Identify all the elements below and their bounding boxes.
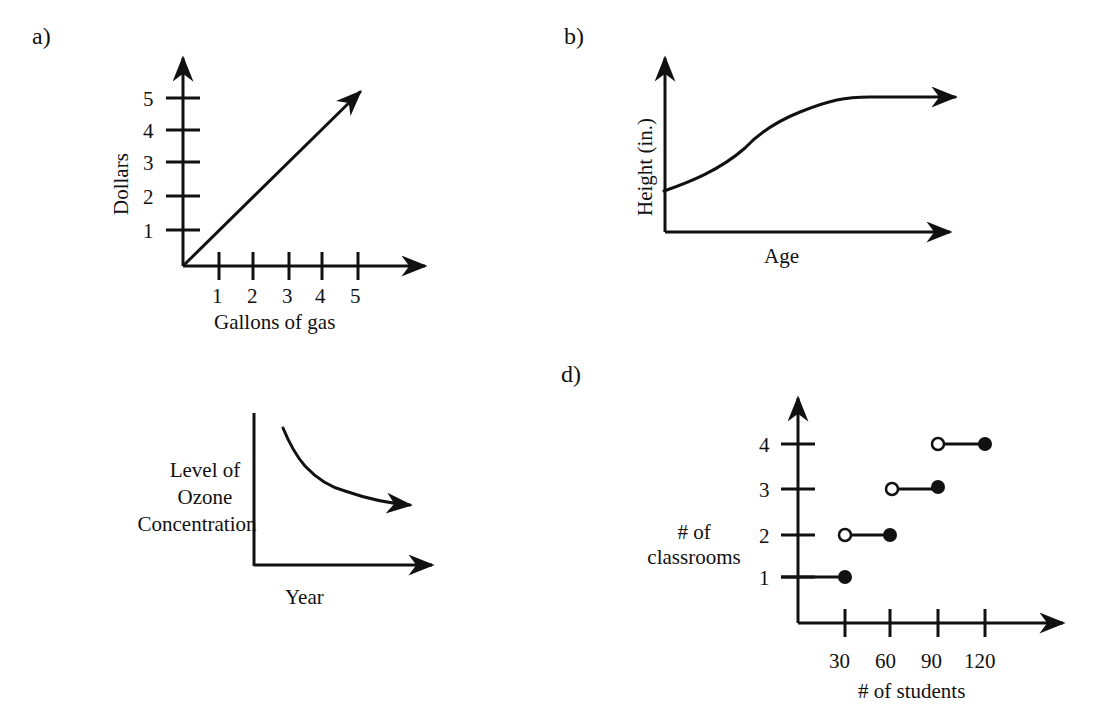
svg-text:5: 5 (143, 87, 154, 111)
svg-text:4: 4 (759, 433, 770, 457)
svg-text:Ozone: Ozone (178, 485, 233, 509)
step-segments-d (781, 437, 992, 584)
svg-text:2: 2 (759, 524, 770, 548)
line-a (185, 92, 360, 264)
svg-text:2: 2 (247, 284, 258, 308)
svg-text:3: 3 (143, 151, 154, 175)
open-point (839, 529, 851, 541)
closed-point (883, 528, 897, 542)
svg-text:Concentration: Concentration (138, 512, 257, 536)
y-label-b: Height (in.) (633, 118, 657, 216)
svg-text:1: 1 (759, 566, 770, 590)
svg-text:60: 60 (875, 649, 896, 673)
closed-point (978, 437, 992, 451)
svg-text:classrooms: classrooms (647, 545, 740, 569)
svg-text:3: 3 (759, 478, 770, 502)
svg-text:1: 1 (143, 219, 154, 243)
panel-label-b: b) (564, 23, 584, 49)
chart-c: Year Level of Ozone Concentration (138, 413, 432, 609)
chart-d: d) 1 2 3 4 30 60 90 120 (561, 361, 1063, 703)
panel-label-d: d) (561, 361, 581, 387)
y-ticks-a: 1 2 3 4 5 (143, 87, 200, 243)
y-label-c: Level of Ozone Concentration (138, 458, 257, 536)
svg-text:90: 90 (921, 649, 942, 673)
panel-label-a: a) (32, 23, 51, 49)
x-label-c: Year (285, 585, 324, 609)
chart-a: a) 1 2 3 4 5 1 2 3 4 5 Gallons (32, 23, 425, 334)
closed-point (931, 480, 945, 494)
svg-text:4: 4 (315, 284, 326, 308)
x-ticks-d: 30 60 90 120 (829, 609, 996, 673)
svg-text:3: 3 (282, 284, 293, 308)
curve-b (664, 97, 955, 191)
figure: a) 1 2 3 4 5 1 2 3 4 5 Gallons (0, 0, 1093, 720)
y-label-d: # of classrooms (647, 520, 740, 569)
svg-text:# of: # of (677, 520, 710, 544)
open-point (886, 483, 898, 495)
x-label-a: Gallons of gas (214, 310, 335, 334)
y-label-a: Dollars (109, 153, 133, 215)
open-point (932, 438, 944, 450)
x-ticks-a: 1 2 3 4 5 (212, 252, 361, 308)
chart-b: b) Age Height (in.) (564, 23, 955, 268)
svg-text:5: 5 (350, 284, 361, 308)
svg-text:Level of: Level of (170, 458, 241, 482)
svg-text:2: 2 (143, 185, 154, 209)
y-ticks-d: 1 2 3 4 (759, 433, 815, 590)
svg-text:120: 120 (964, 649, 996, 673)
svg-text:4: 4 (143, 119, 154, 143)
svg-text:30: 30 (829, 649, 850, 673)
svg-text:1: 1 (212, 284, 223, 308)
closed-point (838, 570, 852, 584)
x-label-d: # of students (858, 679, 965, 703)
x-label-b: Age (764, 244, 799, 268)
curve-c (283, 428, 410, 505)
